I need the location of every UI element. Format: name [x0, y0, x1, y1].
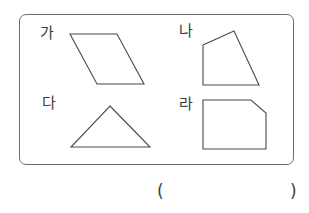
shape-na-quadrilateral [203, 31, 259, 85]
shape-da-triangle [71, 106, 150, 147]
shape-ra-pentagon [203, 100, 266, 149]
shapes-canvas [0, 0, 309, 213]
answer-open-paren: ( [157, 183, 164, 200]
answer-close-paren: ) [290, 183, 297, 200]
shape-ga-parallelogram [70, 34, 144, 84]
answer-blank[interactable] [168, 183, 286, 201]
